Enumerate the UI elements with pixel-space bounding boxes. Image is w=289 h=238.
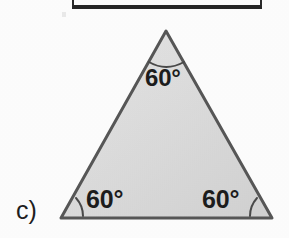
triangle-diagram (0, 0, 289, 238)
angle-label-bottom-left: 60° (86, 185, 123, 214)
part-label: c) (16, 196, 37, 225)
angle-label-bottom-right: 60° (202, 185, 239, 214)
figure-container: 60° 60° 60° c) (0, 0, 289, 238)
angle-label-apex: 60° (145, 64, 181, 92)
